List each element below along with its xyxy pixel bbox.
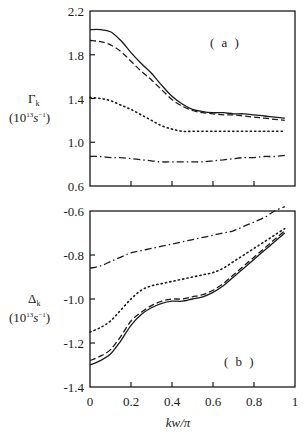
panel-b-tag: ( b ) <box>224 354 256 369</box>
x-tick-label: 0.4 <box>164 394 181 409</box>
panel-a-y-ticks: 0.61.01.41.82.2 <box>68 4 95 194</box>
panel-a-frame <box>90 11 295 186</box>
x-tick-label: 0.6 <box>205 394 222 409</box>
x-tick-label: 0 <box>87 394 94 409</box>
panel-b-ylabel: Δk <box>28 291 40 308</box>
panel-a-x-ticks <box>131 181 254 186</box>
series-dashed-line <box>90 41 285 121</box>
series-dashed-line <box>90 231 285 361</box>
panel-a-ylabel-units: (1013s−1) <box>9 110 50 125</box>
series-dash-dot-line <box>90 207 285 269</box>
y-tick-label: -0.8 <box>63 248 84 263</box>
panel-a-tag: ( a ) <box>210 35 241 50</box>
panel-a: 0.61.01.41.82.2 ( a ) Γk (1013s−1) <box>9 4 295 194</box>
y-tick-label: -1.0 <box>63 292 84 307</box>
y-tick-label: 2.2 <box>68 4 84 19</box>
series-dash-dot-line <box>90 155 285 162</box>
series-dotted-line <box>90 229 285 332</box>
y-tick-label: 0.6 <box>68 179 85 194</box>
panel-b: -1.4-1.2-1.0-0.8-0.6 00.20.40.60.81 ( b … <box>9 204 298 409</box>
panel-b-ylabel-units: (1013s−1) <box>9 310 50 325</box>
x-tick-label: 1 <box>292 394 299 409</box>
x-axis-label: kw/π <box>166 415 191 430</box>
y-tick-label: 1.8 <box>68 48 84 63</box>
series-solid-line <box>90 233 285 365</box>
x-tick-label: 0.2 <box>123 394 139 409</box>
y-tick-label: 1.0 <box>68 135 84 150</box>
figure: 0.61.01.41.82.2 ( a ) Γk (1013s−1) -1.4-… <box>0 0 308 439</box>
y-tick-label: -1.2 <box>63 336 84 351</box>
y-tick-label: -0.6 <box>63 204 84 219</box>
panel-a-series <box>90 29 285 162</box>
y-tick-label: -1.4 <box>63 380 84 395</box>
panel-b-x-ticks: 00.20.40.60.81 <box>87 382 299 409</box>
y-tick-label: 1.4 <box>68 92 85 107</box>
x-tick-label: 0.8 <box>246 394 262 409</box>
panel-a-ylabel: Γk <box>28 91 40 108</box>
panel-b-series <box>90 207 285 365</box>
